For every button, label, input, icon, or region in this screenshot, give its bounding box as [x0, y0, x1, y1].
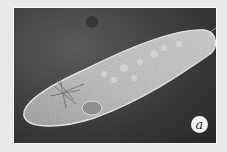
- figure-label: a: [196, 118, 204, 131]
- figure-label-badge: a: [191, 116, 208, 133]
- micrograph-photo: [14, 8, 216, 143]
- paramecium-illustration: [14, 8, 216, 143]
